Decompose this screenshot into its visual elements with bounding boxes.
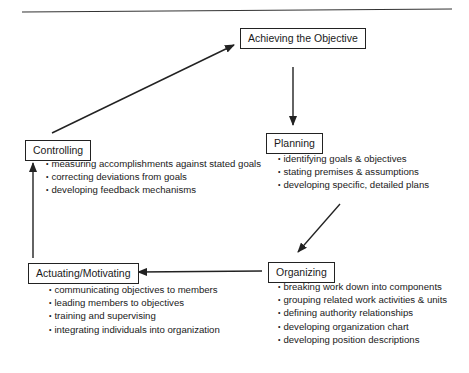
list-item: leading members to objectives <box>49 296 220 309</box>
controlling-activities-list: measuring accomplishments against stated… <box>46 157 261 197</box>
planning-activities-list: identifying goals & objectives stating p… <box>278 152 429 192</box>
list-item: developing position descriptions <box>278 333 447 346</box>
list-item: developing specific, detailed plans <box>278 178 429 191</box>
node-achieving-the-objective: Achieving the Objective <box>240 28 366 49</box>
arrow-controlling-to-achieving <box>52 45 234 133</box>
list-item: breaking work down into components <box>278 280 447 293</box>
list-item: developing organization chart <box>278 320 447 333</box>
node-label: Organizing <box>276 266 327 278</box>
list-item: training and supervising <box>49 309 220 322</box>
node-label: Planning <box>274 137 315 149</box>
node-label: Controlling <box>33 144 83 156</box>
list-item: grouping related work activities & units <box>278 293 447 306</box>
list-item: defining authority relationships <box>278 306 447 319</box>
diagram-canvas: Achieving the Objective Planning identif… <box>0 0 469 373</box>
node-label: Actuating/Motivating <box>36 267 131 279</box>
node-actuating-motivating: Actuating/Motivating <box>28 263 139 284</box>
list-item: stating premises & assumptions <box>278 165 429 178</box>
arrow-organizing-to-actuating <box>138 271 262 272</box>
node-planning: Planning <box>266 133 323 154</box>
actuating-activities-list: communicating objectives to members lead… <box>49 283 220 336</box>
node-label: Achieving the Objective <box>248 32 358 44</box>
list-item: communicating objectives to members <box>49 283 220 296</box>
list-item: integrating individuals into organizatio… <box>49 323 220 336</box>
list-item: correcting deviations from goals <box>46 170 261 183</box>
list-item: identifying goals & objectives <box>278 152 429 165</box>
organizing-activities-list: breaking work down into components group… <box>278 280 447 346</box>
top-rule-divider <box>22 9 452 12</box>
arrow-planning-to-organizing <box>298 204 340 252</box>
list-item: measuring accomplishments against stated… <box>46 157 261 170</box>
list-item: developing feedback mechanisms <box>46 183 261 196</box>
